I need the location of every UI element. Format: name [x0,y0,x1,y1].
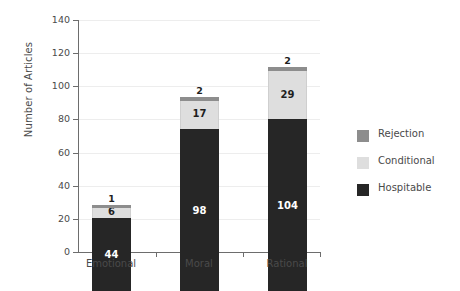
gridline-140 [78,20,320,21]
legend-swatch-conditional-icon [357,157,369,169]
bar-segment-rejection[interactable] [92,205,131,208]
legend-swatch-hospitable-icon [357,184,369,196]
stacked-bar-chart: Number of Articles 140 120 100 80 60 40 … [0,0,460,291]
bar-value-conditional: 17 [180,109,219,119]
legend-label-conditional: Conditional [378,155,435,166]
legend-label-rejection: Rejection [378,128,424,139]
y-tick-label-0: 0 [38,246,70,257]
bar-group-moral[interactable]: 98 17 2 [180,39,219,291]
y-tick-mark-140 [73,20,78,21]
y-tick-label-80: 80 [38,113,70,124]
y-tick-mark-100 [73,86,78,87]
x-tick-mark-1 [156,252,157,257]
bar-value-rejection: 1 [92,194,131,204]
y-tick-mark-20 [73,219,78,220]
x-tick-mark-3 [320,252,321,257]
legend-label-hospitable: Hospitable [378,182,431,193]
y-tick-label-40: 40 [38,180,70,191]
bar-segment-rejection[interactable] [180,97,219,101]
x-category-label-emotional: Emotional [63,258,159,269]
bar-value-conditional: 6 [92,207,131,217]
y-tick-mark-80 [73,119,78,120]
x-category-label-moral: Moral [151,258,247,269]
y-tick-label-140: 140 [38,14,70,25]
y-tick-mark-120 [73,53,78,54]
bar-value-conditional: 29 [268,90,307,100]
y-tick-mark-40 [73,186,78,187]
y-tick-label-120: 120 [38,47,70,58]
y-tick-label-60: 60 [38,147,70,158]
y-tick-label-20: 20 [38,213,70,224]
y-tick-label-100: 100 [38,80,70,91]
bar-group-rational[interactable]: 104 29 2 [268,39,307,291]
bar-value-rejection: 2 [180,86,219,96]
x-category-label-rational: Rational [239,258,335,269]
x-tick-mark-2 [243,252,244,257]
y-tick-mark-60 [73,153,78,154]
bar-value-rejection: 2 [268,56,307,66]
bar-group-emotional[interactable]: 44 6 1 [92,39,131,291]
bar-value-hospitable: 98 [180,206,219,216]
bar-segment-rejection[interactable] [268,67,307,71]
y-axis-label: Number of Articles [23,10,34,170]
bar-value-hospitable: 104 [268,201,307,211]
y-axis-line [78,20,79,253]
y-tick-mark-0 [73,252,78,253]
legend-swatch-rejection-icon [357,130,369,142]
